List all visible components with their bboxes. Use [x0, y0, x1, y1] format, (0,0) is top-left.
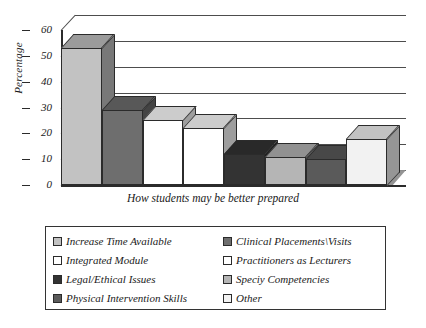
- bar-6: [265, 157, 306, 185]
- bar-front-face: [306, 159, 347, 185]
- y-axis-tick-labels: 6050403020100: [22, 0, 52, 215]
- legend-item: Practitioners as Lecturers: [223, 255, 383, 266]
- bar-4: [183, 128, 224, 185]
- legend-label: Integrated Module: [66, 255, 148, 266]
- bar-1: [61, 48, 102, 185]
- y-axis-tick-mark: [22, 133, 30, 134]
- legend-label: Practitioners as Lecturers: [236, 255, 351, 266]
- legend-item: Increase Time Available: [53, 236, 223, 247]
- y-axis-tick-mark: [22, 108, 30, 109]
- bar-5: [224, 154, 265, 185]
- legend-swatch-icon: [223, 275, 232, 284]
- legend-item: Other: [223, 293, 383, 304]
- bar-2: [102, 110, 143, 185]
- plot-area: Percentage 6050403020100 How students ma…: [0, 0, 426, 215]
- y-axis-tick-mark: [22, 185, 30, 186]
- bar-front-face: [265, 157, 306, 185]
- legend-swatch-icon: [53, 294, 62, 303]
- legend-swatch-icon: [223, 256, 232, 265]
- legend-item: Clinical Placements\Visits: [223, 236, 383, 247]
- bar-front-face: [183, 128, 224, 185]
- legend-item: Speciy Competencies: [223, 274, 383, 285]
- bar-series: [61, 0, 406, 186]
- bar-front-face: [224, 154, 265, 185]
- y-axis-tick-mark: [22, 159, 30, 160]
- bar-8: [346, 139, 387, 186]
- y-axis-tick-mark: [22, 56, 30, 57]
- legend-item: Integrated Module: [53, 255, 223, 266]
- y-axis-tick-mark: [22, 82, 30, 83]
- legend-label: Increase Time Available: [66, 236, 172, 247]
- legend-swatch-icon: [53, 275, 62, 284]
- chart-legend: Increase Time AvailableClinical Placemen…: [45, 226, 386, 310]
- legend-item: Physical Intervention Skills: [53, 293, 223, 304]
- legend-swatch-icon: [223, 294, 232, 303]
- legend-label: Speciy Competencies: [236, 274, 329, 285]
- x-axis-title: How students may be better prepared: [0, 192, 426, 204]
- legend-label: Physical Intervention Skills: [66, 293, 187, 304]
- legend-label: Legal/Ethical Issues: [66, 274, 156, 285]
- bar-front-face: [346, 139, 387, 186]
- y-axis-tick-mark: [22, 30, 30, 31]
- legend-swatch-icon: [53, 237, 62, 246]
- bar-7: [306, 159, 347, 185]
- legend-swatch-icon: [223, 237, 232, 246]
- legend-item: Legal/Ethical Issues: [53, 274, 223, 285]
- legend-label: Other: [236, 293, 262, 304]
- bar-3: [143, 120, 184, 185]
- bar-chart-figure: Percentage 6050403020100 How students ma…: [0, 0, 426, 328]
- bar-front-face: [143, 120, 184, 185]
- legend-label: Clinical Placements\Visits: [236, 236, 352, 247]
- legend-swatch-icon: [53, 256, 62, 265]
- bar-front-face: [61, 48, 102, 185]
- bar-front-face: [102, 110, 143, 185]
